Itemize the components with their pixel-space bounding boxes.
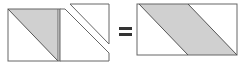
shaded-parallelogram	[139, 4, 237, 55]
right-rectangle-figure	[137, 4, 237, 55]
middle-cut-square	[60, 4, 109, 61]
left-square-figure	[8, 9, 60, 61]
area-equivalence-diagram	[0, 0, 240, 65]
equals-sign	[119, 27, 132, 36]
